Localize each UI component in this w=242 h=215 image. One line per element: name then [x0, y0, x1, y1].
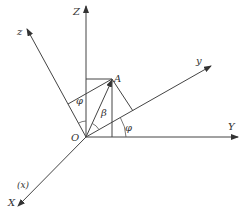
projection-A-to-z — [68, 79, 112, 104]
angle-arc-beta — [92, 123, 99, 129]
label-z: z — [16, 26, 23, 37]
y-axis — [86, 66, 211, 137]
vector-OA — [86, 80, 112, 137]
label-Z: Z — [72, 6, 81, 17]
label-A: A — [113, 73, 121, 84]
X-axis — [18, 137, 86, 206]
label-phi-top: φ — [76, 95, 83, 106]
label-O: O — [71, 132, 79, 143]
label-Y: Y — [228, 121, 236, 132]
label-beta: β — [100, 107, 107, 118]
label-y: y — [195, 55, 202, 66]
angle-arc-phi-top — [78, 121, 86, 123]
label-x-alias: (x) — [17, 180, 30, 190]
label-phi-right: φ — [125, 122, 132, 133]
z-axis — [27, 29, 86, 137]
axes-diagram: Z z A y Y O X (x) φ β φ — [0, 0, 242, 215]
label-X: X — [7, 197, 16, 208]
